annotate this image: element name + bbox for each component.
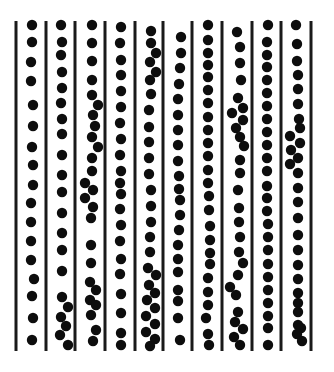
dot bbox=[205, 259, 215, 269]
dot bbox=[150, 303, 160, 313]
channel-wall-line bbox=[221, 21, 224, 351]
dot bbox=[28, 100, 38, 110]
dot bbox=[263, 20, 273, 30]
dot bbox=[87, 75, 97, 85]
dot bbox=[29, 274, 39, 284]
dot bbox=[61, 321, 71, 331]
dot bbox=[203, 178, 213, 188]
dot bbox=[175, 63, 185, 73]
dot bbox=[56, 50, 66, 60]
dot bbox=[116, 254, 126, 264]
dot bbox=[263, 232, 273, 242]
dot bbox=[203, 125, 213, 135]
dot bbox=[115, 178, 125, 188]
dot bbox=[115, 204, 125, 214]
dot bbox=[26, 76, 36, 86]
dot bbox=[88, 110, 98, 120]
dot bbox=[174, 225, 184, 235]
dot bbox=[234, 203, 244, 213]
dot bbox=[292, 56, 302, 66]
dot bbox=[203, 138, 213, 148]
dot bbox=[203, 48, 213, 58]
dot bbox=[295, 138, 305, 148]
dot bbox=[201, 313, 211, 323]
channel-wall-line bbox=[162, 21, 165, 351]
dot bbox=[262, 88, 272, 98]
dot bbox=[86, 310, 96, 320]
dot bbox=[292, 39, 302, 49]
channel-6 bbox=[173, 32, 186, 345]
dot bbox=[146, 217, 156, 227]
dot bbox=[116, 189, 126, 199]
dot bbox=[56, 98, 66, 108]
dot bbox=[87, 20, 97, 30]
dot bbox=[293, 168, 303, 178]
dot bbox=[238, 258, 248, 268]
dot bbox=[293, 260, 303, 270]
dot bbox=[263, 245, 273, 255]
dot bbox=[146, 38, 156, 48]
dot bbox=[116, 166, 126, 176]
channel-1 bbox=[26, 20, 39, 345]
dot bbox=[263, 323, 273, 333]
dot bbox=[28, 160, 38, 170]
dot bbox=[263, 272, 273, 282]
dot bbox=[57, 266, 67, 276]
dot bbox=[262, 114, 272, 124]
channel-wall-line bbox=[45, 21, 48, 351]
dot bbox=[238, 324, 248, 334]
dot bbox=[87, 90, 97, 100]
dot bbox=[57, 150, 67, 160]
dot bbox=[295, 123, 305, 133]
dot bbox=[145, 341, 155, 351]
dot bbox=[86, 240, 96, 250]
dot bbox=[204, 340, 214, 350]
dot bbox=[116, 70, 126, 80]
dot bbox=[262, 101, 272, 111]
dot bbox=[174, 171, 184, 181]
dot bbox=[55, 330, 65, 340]
dot bbox=[63, 340, 73, 350]
channel-2 bbox=[55, 20, 73, 350]
dot bbox=[239, 141, 249, 151]
dot bbox=[176, 48, 186, 58]
dot bbox=[87, 166, 97, 176]
dot bbox=[88, 185, 98, 195]
dot bbox=[235, 58, 245, 68]
dot bbox=[146, 201, 156, 211]
dot bbox=[57, 129, 67, 139]
dot bbox=[116, 289, 126, 299]
dot bbox=[205, 248, 215, 258]
dot bbox=[27, 37, 37, 47]
dot bbox=[116, 340, 126, 350]
dot bbox=[204, 205, 214, 215]
dot bbox=[91, 285, 101, 295]
dot bbox=[238, 103, 248, 113]
dot bbox=[262, 37, 272, 47]
dot bbox=[142, 295, 152, 305]
dot bbox=[144, 137, 154, 147]
dot bbox=[116, 86, 126, 96]
dot bbox=[203, 287, 213, 297]
dot bbox=[235, 42, 245, 52]
dot bbox=[262, 181, 272, 191]
dot bbox=[91, 325, 101, 335]
dot bbox=[232, 27, 242, 37]
dot bbox=[57, 228, 67, 238]
dot bbox=[293, 288, 303, 298]
dot bbox=[173, 94, 183, 104]
dot bbox=[146, 89, 156, 99]
dot bbox=[234, 217, 244, 227]
dot bbox=[235, 155, 245, 165]
dot bbox=[26, 57, 36, 67]
channel-wall-line bbox=[280, 21, 283, 351]
dot bbox=[145, 75, 155, 85]
dot bbox=[203, 98, 213, 108]
dot bbox=[173, 285, 183, 295]
dot bbox=[236, 75, 246, 85]
channel-5 bbox=[141, 26, 161, 351]
dot bbox=[63, 302, 73, 312]
dot bbox=[262, 50, 272, 60]
dot bbox=[205, 235, 215, 245]
dot bbox=[235, 132, 245, 142]
